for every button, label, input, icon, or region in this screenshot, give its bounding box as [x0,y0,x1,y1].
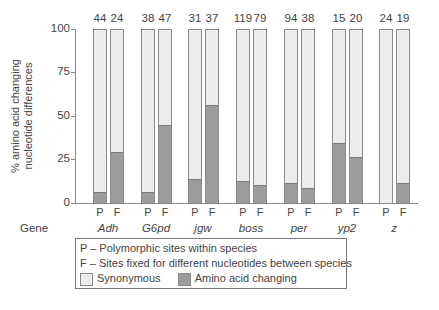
amino-acid-swatch-icon [178,273,191,286]
bar-label-p: P [332,206,346,218]
bar-f-boss [253,29,267,204]
gene-label-jgw: jgw [179,222,227,234]
amino-acid-changing-segment [350,157,362,203]
bar-label-f: F [301,206,315,218]
legend-amino-acid-changing: Amino acid changing [195,272,297,284]
amino-acid-changing-segment [94,192,106,203]
gene-label-z: z [370,222,418,234]
bar-label-p: P [236,206,250,218]
amino-acid-changing-segment [159,125,171,203]
amino-acid-changing-segment [237,181,249,203]
gene-axis-title: Gene [20,222,48,234]
bar-label-f: F [205,206,219,218]
y-tick-0: 0 [46,196,70,208]
y-axis-label-line1: % amino acid changing [9,41,22,191]
bar-label-f: F [158,206,172,218]
bar-label-f: F [253,206,267,218]
y-tick-mark [71,29,76,30]
legend-swatches: Synonymous Amino acid changing [80,272,297,286]
gene-label-boss: boss [227,222,275,234]
y-tick-mark [71,203,76,204]
y-tick-mark [71,116,76,117]
bar-label-f: F [349,206,363,218]
bar-f-per [301,29,315,204]
bar-f-G6pd [158,29,172,204]
amino-acid-changing-segment [206,105,218,203]
bar-p-G6pd [141,29,155,204]
amino-acid-changing-segment [111,152,123,203]
bar-label-p: P [284,206,298,218]
legend-synonymous: Synonymous [97,272,161,284]
amino-acid-changing-segment [302,188,314,203]
gene-label-yp2: yp2 [323,222,371,234]
legend: P – Polymorphic sites within species F –… [75,238,347,289]
bar-p-boss [236,29,250,204]
y-tick-100: 100 [46,22,70,34]
y-tick-75: 75 [46,65,70,77]
legend-p-line: P – Polymorphic sites within species [80,242,257,254]
amino-acid-changing-segment [333,143,345,203]
bar-label-p: P [141,206,155,218]
bar-f-yp2 [349,29,363,204]
bar-label-p: P [188,206,202,218]
bar-label-f: F [396,206,410,218]
bar-f-jgw [205,29,219,204]
count-f-z: 19 [381,12,425,24]
y-axis-label: % amino acid changing nucleotide differe… [9,41,39,191]
legend-f-line: F – Sites fixed for different nucleotide… [80,257,352,269]
bar-p-z [379,29,393,204]
bar-f-z [396,29,410,204]
amino-acid-changing-segment [142,192,154,203]
bar-label-p: P [379,206,393,218]
amino-acid-changing-segment [189,179,201,203]
y-tick-mark [71,159,76,160]
y-tick-25: 25 [46,152,70,164]
y-axis-label-line2: nucleotide differences [22,41,35,191]
bar-label-p: P [93,206,107,218]
gene-label-G6pd: G6pd [132,222,180,234]
y-tick-50: 50 [46,109,70,121]
bar-f-Adh [110,29,124,204]
bar-p-per [284,29,298,204]
synonymous-swatch-icon [80,273,93,286]
y-tick-mark [71,72,76,73]
gene-label-per: per [275,222,323,234]
bar-p-jgw [188,29,202,204]
gene-label-Adh: Adh [84,222,132,234]
bar-label-f: F [110,206,124,218]
bar-p-Adh [93,29,107,204]
amino-acid-changing-segment [285,183,297,203]
amino-acid-changing-segment [397,183,409,203]
amino-acid-changing-segment [254,185,266,203]
bar-p-yp2 [332,29,346,204]
